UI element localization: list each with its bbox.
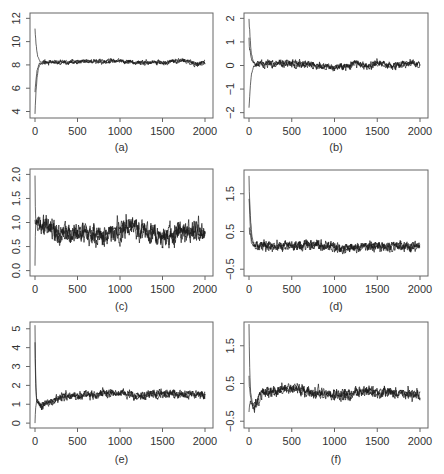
y-axis: −2−1012 bbox=[224, 15, 244, 119]
x-tick-label: 2000 bbox=[193, 283, 217, 295]
panel-caption: (e) bbox=[115, 453, 128, 465]
x-tick-label: 2000 bbox=[193, 435, 217, 447]
trace-plot-figure: 05001000150020004681012(a)05001000150020… bbox=[0, 0, 444, 474]
x-tick-label: 1000 bbox=[322, 283, 346, 295]
x-tick-label: 1500 bbox=[150, 435, 174, 447]
y-tick-label: 1.5 bbox=[224, 338, 236, 353]
y-tick-label: 10 bbox=[10, 35, 22, 47]
x-tick-label: 0 bbox=[32, 125, 38, 137]
trace-lines bbox=[35, 29, 205, 114]
panel-c: 05001000150020000.00.51.01.52.0(c) bbox=[10, 167, 217, 312]
y-tick-label: 4 bbox=[10, 108, 22, 114]
y-tick-label: 1 bbox=[10, 401, 22, 407]
trace-lines bbox=[249, 19, 420, 108]
x-tick-label: 500 bbox=[283, 283, 301, 295]
x-tick-label: 2000 bbox=[408, 283, 432, 295]
x-tick-label: 0 bbox=[246, 125, 252, 137]
y-tick-label: 0.5 bbox=[224, 224, 236, 239]
y-tick-label: −1 bbox=[224, 83, 236, 96]
y-tick-label: 1.5 bbox=[224, 186, 236, 201]
x-tick-label: 0 bbox=[32, 283, 38, 295]
y-axis: −0.50.51.5 bbox=[224, 186, 244, 280]
panel-caption: (c) bbox=[115, 300, 128, 312]
x-tick-label: 2000 bbox=[193, 125, 217, 137]
panel-d: 0500100015002000−0.50.51.5(d) bbox=[224, 170, 432, 312]
y-axis: 012345 bbox=[10, 326, 30, 426]
y-tick-label: 12 bbox=[10, 12, 22, 24]
x-tick-label: 0 bbox=[246, 435, 252, 447]
plot-frame bbox=[244, 322, 428, 428]
y-tick-label: 1.5 bbox=[10, 191, 22, 206]
y-tick-label: 4 bbox=[10, 345, 22, 351]
panel-a: 05001000150020004681012(a) bbox=[10, 12, 217, 153]
panel-caption: (f) bbox=[331, 453, 341, 465]
x-tick-label: 1500 bbox=[365, 283, 389, 295]
x-tick-label: 1000 bbox=[322, 435, 346, 447]
panel-e: 0500100015002000012345(e) bbox=[10, 322, 217, 465]
x-tick-label: 1500 bbox=[365, 435, 389, 447]
x-axis: 0500100015002000 bbox=[246, 428, 432, 447]
trace-lines bbox=[35, 325, 205, 423]
panel-f: 0500100015002000−0.50.51.5(f) bbox=[224, 322, 432, 465]
y-axis: −0.50.51.5 bbox=[224, 338, 244, 432]
plot-frame bbox=[30, 13, 213, 118]
trace-lines bbox=[249, 176, 420, 254]
panel-caption: (b) bbox=[329, 141, 342, 153]
y-tick-label: 8 bbox=[10, 62, 22, 68]
x-tick-label: 1000 bbox=[108, 125, 132, 137]
x-tick-label: 500 bbox=[283, 435, 301, 447]
x-axis: 0500100015002000 bbox=[32, 118, 217, 137]
y-tick-label: 0.5 bbox=[10, 239, 22, 254]
x-axis: 0500100015002000 bbox=[32, 428, 217, 447]
x-tick-label: 1500 bbox=[150, 283, 174, 295]
y-tick-label: 0.5 bbox=[224, 376, 236, 391]
x-axis: 0500100015002000 bbox=[246, 276, 432, 295]
x-tick-label: 1500 bbox=[365, 125, 389, 137]
plot-frame bbox=[30, 322, 213, 428]
y-tick-label: 2.0 bbox=[10, 167, 22, 182]
x-tick-label: 2000 bbox=[408, 435, 432, 447]
y-tick-label: 0 bbox=[224, 62, 236, 68]
x-tick-label: 500 bbox=[68, 435, 86, 447]
panel-caption: (a) bbox=[115, 141, 128, 153]
plot-frame bbox=[244, 170, 428, 276]
y-tick-label: 1.0 bbox=[10, 215, 22, 230]
y-tick-label: 5 bbox=[10, 326, 22, 332]
x-tick-label: 0 bbox=[246, 283, 252, 295]
x-tick-label: 2000 bbox=[408, 125, 432, 137]
panel-b: 0500100015002000−2−1012(b) bbox=[224, 13, 432, 153]
x-tick-label: 0 bbox=[32, 435, 38, 447]
y-tick-label: 0 bbox=[10, 420, 22, 426]
y-tick-label: 0.0 bbox=[10, 263, 22, 278]
panel-caption: (d) bbox=[329, 300, 342, 312]
x-tick-label: 500 bbox=[283, 125, 301, 137]
y-tick-label: 2 bbox=[10, 382, 22, 388]
x-tick-label: 1000 bbox=[108, 435, 132, 447]
trace-lines bbox=[35, 176, 205, 266]
y-axis: 4681012 bbox=[10, 12, 30, 114]
x-tick-label: 1000 bbox=[322, 125, 346, 137]
y-tick-label: 6 bbox=[10, 85, 22, 91]
y-tick-label: −0.5 bbox=[224, 258, 236, 280]
x-axis: 0500100015002000 bbox=[246, 118, 432, 137]
figure-canvas: 05001000150020004681012(a)05001000150020… bbox=[0, 0, 444, 474]
x-axis: 0500100015002000 bbox=[32, 276, 217, 295]
y-tick-label: 1 bbox=[224, 39, 236, 45]
x-tick-label: 500 bbox=[68, 283, 86, 295]
x-tick-label: 500 bbox=[68, 125, 86, 137]
trace-lines bbox=[249, 324, 420, 413]
x-tick-label: 1500 bbox=[150, 125, 174, 137]
x-tick-label: 1000 bbox=[108, 283, 132, 295]
y-tick-label: 2 bbox=[224, 15, 236, 21]
y-tick-label: −0.5 bbox=[224, 410, 236, 432]
y-tick-label: −2 bbox=[224, 106, 236, 119]
y-tick-label: 3 bbox=[10, 363, 22, 369]
y-axis: 0.00.51.01.52.0 bbox=[10, 167, 30, 278]
